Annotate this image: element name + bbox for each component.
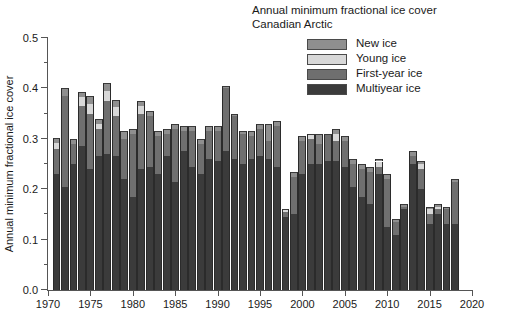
bar-segment (375, 174, 383, 290)
bar-segment (332, 141, 340, 161)
bar-segment (400, 209, 408, 290)
bar-segment (443, 207, 451, 210)
bar-segment (383, 227, 391, 290)
bar-segment (409, 151, 417, 156)
bar-segment (282, 212, 290, 217)
bar (188, 38, 196, 290)
x-tick-label: 2020 (460, 299, 484, 310)
bar-segment (417, 161, 425, 164)
bar-segment (205, 126, 213, 131)
x-tick-label: 2000 (290, 299, 314, 310)
bar-segment (163, 134, 171, 157)
bar-segment (78, 106, 86, 146)
y-tick (41, 138, 48, 139)
bar (400, 38, 408, 290)
bar-segment (171, 129, 179, 182)
x-tick-label: 2005 (333, 299, 357, 310)
bar (171, 38, 179, 290)
bar (163, 38, 171, 290)
bar-segment (70, 144, 78, 164)
bar-segment (205, 159, 213, 290)
bar-segment (103, 83, 111, 91)
bar-segment (231, 114, 239, 117)
bar-segment (426, 207, 434, 210)
bar-segment (86, 169, 94, 290)
bar (248, 38, 256, 290)
bar-segment (103, 154, 111, 290)
bar-segment (341, 136, 349, 141)
bar-segment (163, 129, 171, 134)
bar-segment (239, 131, 247, 134)
bar (426, 38, 434, 290)
bar-segment (273, 167, 281, 290)
bar (53, 38, 61, 290)
bar-segment (256, 129, 264, 157)
bar-segment (434, 204, 442, 207)
bar (349, 38, 357, 290)
bar-segment (214, 126, 222, 131)
bar-segment (171, 124, 179, 129)
bar-segment (426, 209, 434, 214)
y-tick-label: 0.1 (23, 234, 38, 245)
bar-segment (392, 219, 400, 222)
bar-segment (231, 116, 239, 159)
x-tick (472, 290, 473, 296)
bar-segment (332, 134, 340, 142)
bar (103, 38, 111, 290)
bar-segment (307, 139, 315, 164)
bar-segment (205, 131, 213, 159)
x-tick-label: 1970 (36, 299, 60, 310)
bar (61, 38, 69, 290)
bar (315, 38, 323, 290)
bar-segment (129, 134, 137, 197)
x-tick-label: 2015 (417, 299, 441, 310)
bar-segment (137, 169, 145, 290)
bar (112, 38, 120, 290)
bar-segment (146, 167, 154, 290)
bar (290, 38, 298, 290)
bar-segment (112, 116, 120, 156)
bar-segment (315, 134, 323, 144)
bar-segment (180, 131, 188, 151)
x-tick (302, 290, 303, 296)
bar-segment (154, 174, 162, 290)
bar (434, 38, 442, 290)
bar (214, 38, 222, 290)
bar-segment (103, 101, 111, 154)
x-tick-label: 2010 (375, 299, 399, 310)
chart-subtitle: Canadian Arctic (252, 18, 437, 32)
plot-area: 0.00.10.20.30.40.51970197519801985199019… (48, 38, 472, 290)
bar-segment (451, 224, 459, 290)
bar (146, 38, 154, 290)
bar-segment (214, 161, 222, 290)
bar-segment (451, 179, 459, 182)
bar (392, 38, 400, 290)
bar-segment (298, 136, 306, 141)
bar-segment (443, 209, 451, 224)
x-tick (90, 290, 91, 296)
bar (256, 38, 264, 290)
bar-segment (315, 164, 323, 290)
bar-segment (375, 167, 383, 175)
bar-segment (248, 131, 256, 136)
bar-segment (400, 204, 408, 207)
bar-segment (392, 222, 400, 235)
bar-segment (95, 156, 103, 290)
bar (443, 38, 451, 290)
bar (409, 38, 417, 290)
y-tick-minor (44, 62, 48, 63)
x-tick-label: 1975 (78, 299, 102, 310)
x-tick (175, 290, 176, 296)
bar-segment (248, 159, 256, 290)
bar (239, 38, 247, 290)
bar-segment (434, 214, 442, 290)
y-tick (41, 239, 48, 240)
bar-segment (375, 159, 383, 162)
bar (78, 38, 86, 290)
y-tick-minor (44, 264, 48, 265)
bar-segment (137, 114, 145, 169)
bar-segment (290, 214, 298, 290)
bar-segment (112, 156, 120, 290)
bar-segment (129, 129, 137, 134)
bar-segment (70, 164, 78, 290)
